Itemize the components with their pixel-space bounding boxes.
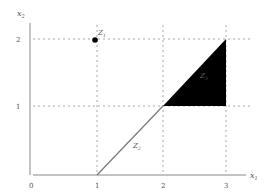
origin-label: 0	[29, 182, 33, 190]
z3-triangle	[163, 39, 226, 106]
y-axis-label: x2	[17, 9, 25, 19]
x-axis-label: x1	[250, 171, 258, 181]
z2-segment	[97, 106, 163, 175]
z1-point	[92, 37, 98, 43]
x-tick-1: 1	[95, 182, 99, 190]
z2-label: Z2	[132, 142, 141, 151]
x-tick-3: 3	[224, 182, 228, 190]
x-tick-2: 2	[161, 182, 165, 190]
diagram: x2 x1 0 1 2 3 2 1 Z1 Z3 Z2	[0, 0, 266, 194]
y-tick-1: 1	[16, 103, 20, 111]
z1-label: Z1	[97, 29, 106, 38]
y-tick-2: 2	[16, 36, 20, 44]
